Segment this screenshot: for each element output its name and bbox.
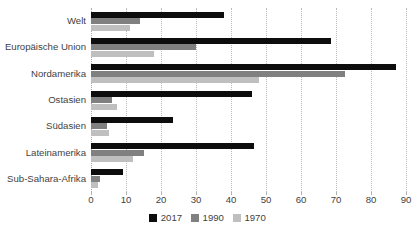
bar-1970-welt	[91, 25, 130, 31]
x-tick-label: 40	[226, 195, 237, 206]
bar-1990-welt	[91, 18, 140, 24]
bar-2017-ostasien	[91, 91, 252, 97]
bar-1970-sub-sahara-afrika	[91, 182, 98, 188]
x-tick-label: 20	[156, 195, 167, 206]
bar-group: Südasien	[91, 117, 406, 136]
legend-swatch-icon	[191, 214, 199, 222]
bar-1990-europ-ische-union	[91, 44, 196, 50]
gridline-90	[406, 8, 407, 192]
category-label: Sub-Sahara-Afrika	[0, 174, 91, 184]
bar-1970-nordamerika	[91, 77, 259, 83]
legend-label: 2017	[161, 213, 182, 223]
bar-1990-s-dasien	[91, 123, 107, 129]
bar-1970-s-dasien	[91, 130, 109, 136]
bar-2017-s-dasien	[91, 117, 173, 123]
category-label: Europäische Union	[0, 42, 91, 52]
bar-chart: WeltEuropäische UnionNordamerikaOstasien…	[0, 0, 415, 227]
bar-1990-lateinamerika	[91, 150, 144, 156]
category-label: Ostasien	[0, 95, 91, 105]
bar-group: Sub-Sahara-Afrika	[91, 169, 406, 188]
category-label: Welt	[0, 16, 91, 26]
plot-area: WeltEuropäische UnionNordamerikaOstasien…	[91, 8, 406, 192]
bar-1970-lateinamerika	[91, 156, 133, 162]
x-axis: 0102030405060708090	[91, 192, 406, 208]
bar-2017-nordamerika	[91, 64, 396, 70]
x-tick-label: 60	[296, 195, 307, 206]
legend-label: 1990	[203, 213, 224, 223]
category-label: Nordamerika	[0, 69, 91, 79]
bar-2017-lateinamerika	[91, 143, 254, 149]
legend-label: 1970	[244, 213, 265, 223]
x-tick-label: 10	[121, 195, 132, 206]
legend-item-1970[interactable]: 1970	[233, 213, 266, 223]
bar-2017-sub-sahara-afrika	[91, 169, 123, 175]
bar-2017-welt	[91, 12, 224, 18]
chart-legend: 201719901970	[0, 210, 415, 225]
x-tick-label: 30	[191, 195, 202, 206]
x-tick-label: 80	[366, 195, 377, 206]
x-tick-label: 90	[401, 195, 412, 206]
legend-swatch-icon	[233, 214, 241, 222]
bar-group: Ostasien	[91, 91, 406, 110]
bar-1990-sub-sahara-afrika	[91, 176, 100, 182]
bar-2017-europ-ische-union	[91, 38, 331, 44]
bar-group: Nordamerika	[91, 64, 406, 83]
legend-item-2017[interactable]: 2017	[149, 213, 182, 223]
bar-group: Lateinamerika	[91, 143, 406, 162]
bar-1970-europ-ische-union	[91, 51, 154, 57]
category-label: Südasien	[0, 121, 91, 131]
x-tick-label: 70	[331, 195, 342, 206]
legend-item-1990[interactable]: 1990	[191, 213, 224, 223]
x-tick-label: 0	[88, 195, 93, 206]
bar-1990-nordamerika	[91, 71, 345, 77]
bar-1990-ostasien	[91, 97, 112, 103]
bar-1970-ostasien	[91, 104, 117, 110]
category-label: Lateinamerika	[0, 148, 91, 158]
x-tick-label: 50	[261, 195, 272, 206]
bar-group: Welt	[91, 12, 406, 31]
legend-swatch-icon	[149, 214, 157, 222]
bar-group: Europäische Union	[91, 38, 406, 57]
